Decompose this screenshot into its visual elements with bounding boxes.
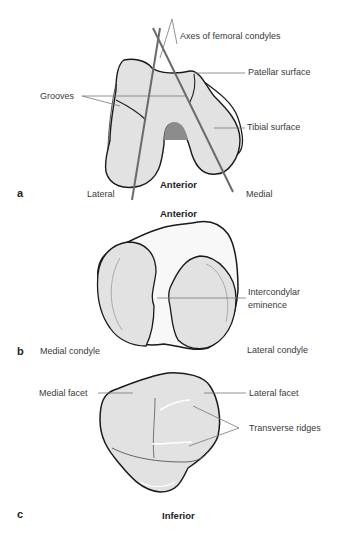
label-intercondylar: Intercondylar (248, 287, 300, 298)
patella-posterior-view (100, 373, 220, 492)
panel-letter-a: a (17, 187, 23, 199)
label-medial-facet: Medial facet (39, 388, 88, 399)
panel-letter-b: b (17, 345, 24, 357)
tibial-plateau-view (98, 222, 239, 350)
label-medial-a: Medial (246, 189, 273, 200)
label-transverse-ridges: Transverse ridges (249, 423, 321, 434)
label-axes-femoral-condyles: Axes of femoral condyles (180, 31, 281, 42)
panel-letter-c: c (17, 508, 23, 520)
label-lateral-a: Lateral (87, 189, 115, 200)
label-anterior-a: Anterior (160, 179, 197, 190)
label-eminence: eminence (248, 300, 287, 311)
knee-anatomy-illustration (0, 0, 346, 536)
label-tibial-surface: Tibial surface (247, 122, 300, 133)
label-grooves: Grooves (40, 91, 74, 102)
label-anterior-b: Anterior (160, 208, 197, 219)
label-patellar-surface: Patellar surface (248, 67, 311, 78)
label-lateral-facet: Lateral facet (249, 388, 299, 399)
label-lateral-condyle: Lateral condyle (247, 345, 308, 356)
label-medial-condyle: Medial condyle (40, 346, 100, 357)
label-inferior: Inferior (162, 510, 195, 521)
